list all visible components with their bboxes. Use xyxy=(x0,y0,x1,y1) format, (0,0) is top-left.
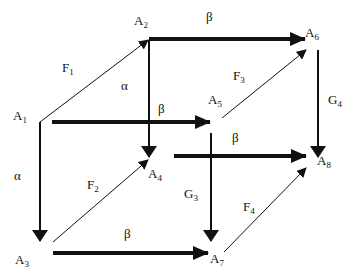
label-g3: G3 xyxy=(184,186,198,203)
label-beta-bottom: β xyxy=(124,226,131,241)
node-a4: A4 xyxy=(148,166,162,183)
label-alpha-back: α xyxy=(121,78,128,93)
node-a3: A3 xyxy=(15,252,29,269)
node-a8: A8 xyxy=(317,153,331,170)
label-f2: F2 xyxy=(87,177,99,194)
arrow-f3 xyxy=(222,50,306,118)
label-f3: F3 xyxy=(233,68,245,85)
node-a5: A5 xyxy=(208,92,222,109)
node-a1: A1 xyxy=(13,108,27,125)
label-beta-mid: β xyxy=(158,101,165,116)
label-alpha-left: α xyxy=(14,168,21,183)
arrow-f2 xyxy=(53,160,148,242)
node-a2: A2 xyxy=(134,13,148,30)
node-a6: A6 xyxy=(305,25,319,42)
arrow-f4 xyxy=(224,168,306,252)
label-f4: F4 xyxy=(243,199,255,216)
label-g4: G4 xyxy=(328,92,342,109)
label-beta-top: β xyxy=(206,9,213,24)
arrow-f1 xyxy=(40,40,148,122)
label-f1: F1 xyxy=(62,60,74,77)
node-a7: A7 xyxy=(210,251,224,268)
cube-diagram: A1 A2 A3 A4 A5 A6 A7 A8 F1 F2 F3 F4 G3 G… xyxy=(0,0,355,275)
label-beta-right: β xyxy=(232,130,239,145)
